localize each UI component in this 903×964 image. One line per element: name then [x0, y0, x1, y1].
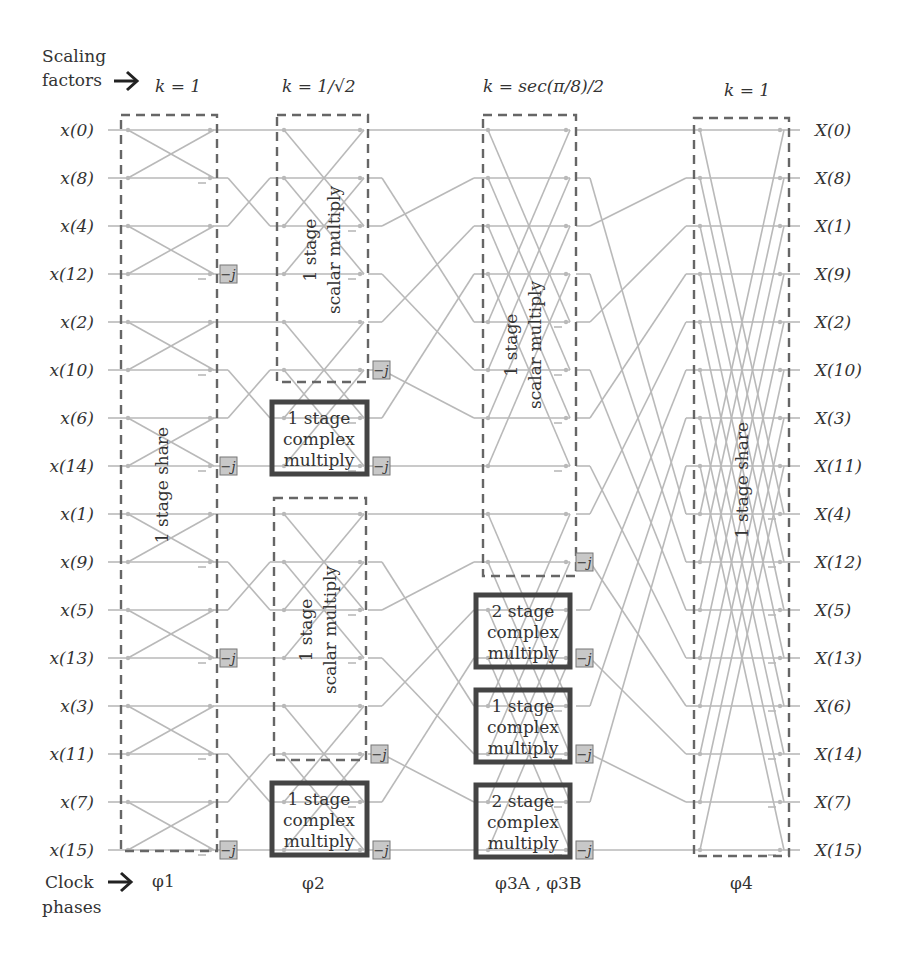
stage4-clock-phase: φ4: [730, 873, 753, 893]
stage4-scaling-factor: k = 1: [724, 80, 770, 100]
output-label-14: X(7): [813, 792, 851, 812]
input-label-9: x(9): [60, 552, 94, 572]
input-label-7: x(14): [50, 456, 94, 476]
stage2-scaling-factor: k = 1/√2: [282, 76, 356, 96]
svg-text:multiply: multiply: [488, 643, 559, 663]
stage3-scalar-label-line2: scalar multiply: [525, 281, 545, 410]
stage2-complex-bottom-label: 1 stage complex multiply: [283, 789, 355, 851]
input-label-10: x(5): [60, 600, 94, 620]
output-label-12: X(6): [813, 696, 851, 716]
svg-text:multiply: multiply: [284, 450, 355, 470]
stage2-bottom-scalar-label-line1: 1 stage: [296, 599, 316, 662]
twiddle-minus-j: −j: [576, 841, 593, 859]
signal-wires: [108, 128, 800, 855]
output-label-6: X(3): [813, 408, 851, 428]
stage3-complex-2stage-b-label: 2 stage complex multiply: [487, 791, 559, 853]
output-label-11: X(13): [813, 648, 862, 668]
input-label-6: x(6): [60, 408, 94, 428]
input-label-13: x(11): [50, 744, 94, 764]
stage1-clock-phase: φ1: [152, 871, 175, 891]
input-label-15: x(15): [50, 840, 94, 860]
stage2-top-scalar-label-line1: 1 stage: [300, 219, 320, 282]
input-label-12: x(3): [60, 696, 94, 716]
svg-text:multiply: multiply: [488, 738, 559, 758]
twiddle-minus-j: −j: [220, 649, 237, 667]
twiddle-minus-j: −j: [373, 841, 390, 859]
svg-text:2 stage: 2 stage: [492, 601, 555, 621]
output-label-8: X(4): [813, 504, 851, 524]
svg-text:−j: −j: [221, 651, 236, 666]
output-label-13: X(14): [813, 744, 862, 764]
svg-text:complex: complex: [487, 717, 559, 737]
twiddle-minus-j: −j: [220, 265, 237, 283]
input-label-11: x(13): [50, 648, 94, 668]
twiddle-minus-j: −j: [220, 457, 237, 475]
stage2-top-scalar-label-line2: scalar multiply: [324, 186, 344, 315]
twiddle-minus-j: −j: [373, 457, 390, 475]
svg-text:−j: −j: [374, 363, 389, 378]
output-label-10: X(5): [813, 600, 851, 620]
input-label-1: x(8): [60, 168, 94, 188]
input-label-0: x(0): [60, 120, 94, 140]
twiddle-minus-j: −j: [371, 745, 388, 763]
output-label-2: X(1): [813, 216, 851, 236]
twiddle-minus-j: −j: [576, 745, 593, 763]
svg-text:−j: −j: [221, 843, 236, 858]
clock-arrow-icon: [108, 873, 131, 891]
svg-text:−j: −j: [577, 555, 592, 570]
svg-text:complex: complex: [487, 812, 559, 832]
svg-text:multiply: multiply: [284, 831, 355, 851]
svg-text:−j: −j: [577, 747, 592, 762]
output-label-4: X(2): [813, 312, 851, 332]
svg-text:complex: complex: [487, 622, 559, 642]
input-label-8: x(1): [60, 504, 94, 524]
svg-text:−j: −j: [221, 267, 236, 282]
stage2-complex-top-label: 1 stage complex multiply: [283, 408, 355, 470]
input-label-2: x(4): [60, 216, 94, 236]
svg-text:−j: −j: [374, 843, 389, 858]
output-label-5: X(10): [813, 360, 862, 380]
scaling-label-line1: Scaling: [42, 46, 106, 66]
output-label-1: X(8): [813, 168, 851, 188]
input-label-4: x(2): [60, 312, 94, 332]
stage3-complex-1stage-label: 1 stage complex multiply: [487, 696, 559, 758]
twiddle-minus-j: −j: [373, 361, 390, 379]
scaling-label-line2: factors: [42, 70, 102, 90]
stage3-complex-2stage-a-label: 2 stage complex multiply: [487, 601, 559, 663]
stage3-clock-phase: φ3A , φ3B: [495, 873, 581, 893]
stage2-bottom-scalar-label-line2: scalar multiply: [320, 566, 340, 695]
twiddle-minus-j: −j: [220, 841, 237, 859]
stage4-share-label: 1 stage share: [732, 422, 752, 538]
input-label-3: x(12): [50, 264, 94, 284]
stage3-scalar-label-line1: 1 stage: [501, 314, 521, 377]
svg-text:−j: −j: [372, 747, 387, 762]
svg-text:complex: complex: [283, 429, 355, 449]
clock-label-line2: phases: [42, 897, 101, 917]
svg-text:2 stage: 2 stage: [492, 791, 555, 811]
svg-text:−j: −j: [577, 843, 592, 858]
stage3-scaling-factor: k = sec(π/8)/2: [483, 76, 604, 96]
input-label-14: x(7): [60, 792, 94, 812]
output-label-0: X(0): [813, 120, 851, 140]
svg-text:−j: −j: [577, 651, 592, 666]
svg-text:1 stage: 1 stage: [288, 408, 351, 428]
stage1-share-label: 1 stage share: [152, 427, 172, 543]
input-label-5: x(10): [50, 360, 94, 380]
output-label-3: X(9): [813, 264, 851, 284]
output-label-15: X(15): [813, 840, 862, 860]
output-label-7: X(11): [813, 456, 862, 476]
fft-signal-flow-diagram: Scaling factors k = 1 k = 1/√2 k = sec(π…: [0, 0, 903, 964]
twiddle-minus-j: −j: [576, 649, 593, 667]
output-label-9: X(12): [813, 552, 862, 572]
svg-text:1 stage: 1 stage: [492, 696, 555, 716]
output-labels: X(0)X(8)X(1)X(9)X(2)X(10)X(3)X(11)X(4)X(…: [813, 120, 862, 860]
stage1-scaling-factor: k = 1: [155, 76, 201, 96]
svg-text:−j: −j: [374, 459, 389, 474]
stage2-scalar-box-top: [277, 115, 368, 382]
svg-text:−j: −j: [221, 459, 236, 474]
svg-text:complex: complex: [283, 810, 355, 830]
clock-label-line1: Clock: [45, 872, 94, 892]
svg-text:1 stage: 1 stage: [288, 789, 351, 809]
input-labels: x(0)x(8)x(4)x(12)x(2)x(10)x(6)x(14)x(1)x…: [50, 120, 94, 860]
stage2-clock-phase: φ2: [302, 873, 325, 893]
